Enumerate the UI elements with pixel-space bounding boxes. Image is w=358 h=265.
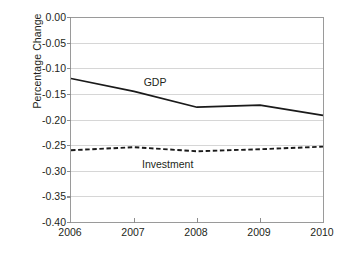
y-tick-label: -0.10 (30, 63, 66, 73)
series-label-investment: Investment (142, 158, 193, 170)
line-chart: Percentage Change 0.00-0.05-0.10-0.15-0.… (0, 0, 358, 265)
series-line-gdp (71, 79, 323, 116)
series-line-investment (71, 147, 323, 152)
y-tick-label: -0.15 (30, 89, 66, 99)
y-tick-label: 0.00 (30, 12, 66, 22)
y-tick-label: -0.20 (30, 115, 66, 125)
x-tick-label: 2009 (236, 226, 282, 238)
x-tick-label: 2010 (299, 226, 345, 238)
y-tick-label: -0.25 (30, 140, 66, 150)
x-tick-label: 2007 (110, 226, 156, 238)
series-lines (71, 17, 323, 222)
y-tick-label: -0.05 (30, 38, 66, 48)
y-tick-label: -0.35 (30, 191, 66, 201)
y-tick-mark (67, 222, 71, 223)
series-label-gdp: GDP (144, 76, 167, 88)
x-tick-label: 2008 (173, 226, 219, 238)
plot-area (70, 17, 324, 223)
x-axis-tick-labels: 20062007200820092010 (0, 226, 358, 242)
x-tick-label: 2006 (47, 226, 93, 238)
y-tick-label: -0.30 (30, 166, 66, 176)
